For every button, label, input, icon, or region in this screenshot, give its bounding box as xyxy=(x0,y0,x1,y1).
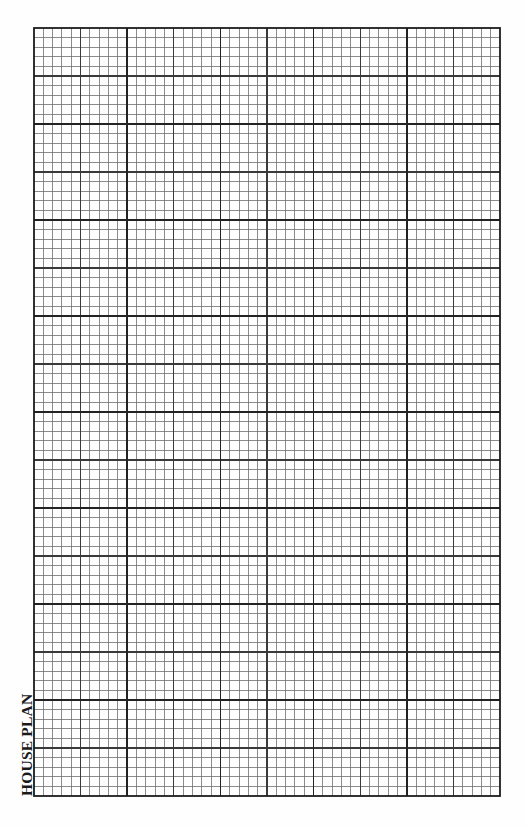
graph-paper-grid xyxy=(0,0,527,826)
graph-paper-page: HOUSE PLAN xyxy=(0,0,527,826)
house-plan-title: HOUSE PLAN xyxy=(19,694,35,796)
